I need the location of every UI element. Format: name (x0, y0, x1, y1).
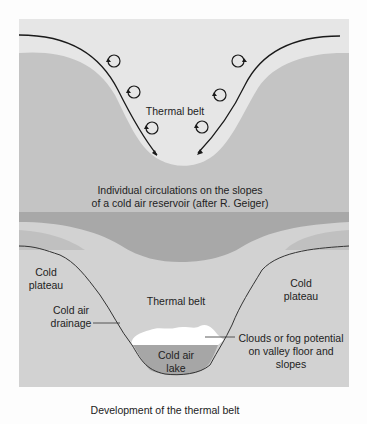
top-panel: Thermal belt Individual circulations on … (19, 19, 349, 212)
thermal-belt-diagram: Thermal belt Individual circulations on … (0, 0, 367, 424)
drainage-label-1: Cold air (53, 304, 90, 316)
drainage-label-2: drainage (51, 317, 92, 329)
right-cold-plateau-label-2: plateau (284, 290, 319, 302)
lake-label-1: Cold air (158, 349, 195, 361)
clouds-label-3: slopes (276, 358, 306, 370)
top-caption-line2: of a cold air reservoir (after R. Geiger… (92, 197, 269, 209)
left-cold-plateau-label-2: plateau (29, 279, 64, 291)
clouds-label-1: Clouds or fog potential (238, 332, 343, 344)
bottom-thermal-belt-label: Thermal belt (147, 295, 205, 307)
right-cold-plateau-label-1: Cold (290, 277, 312, 289)
clouds-label-2: on valley floor and (248, 345, 333, 357)
left-cold-plateau-label-1: Cold (35, 266, 57, 278)
top-thermal-belt-label: Thermal belt (146, 105, 204, 117)
figure-caption: Development of the thermal belt (91, 404, 240, 416)
lake-label-2: lake (166, 362, 185, 374)
top-caption-line1: Individual circulations on the slopes (97, 184, 262, 196)
bottom-panel: Cold plateau Cold plateau Thermal belt C… (19, 212, 349, 387)
